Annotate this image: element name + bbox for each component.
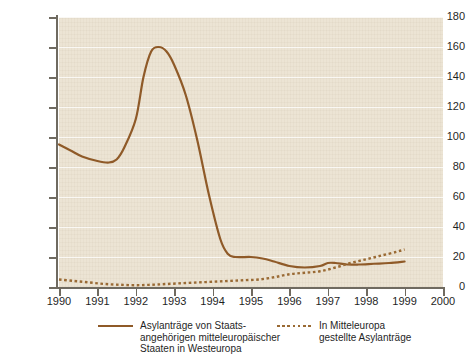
y-axis-tick [49,137,56,139]
y-axis-tick-label: 40 [419,221,465,232]
y-axis-tick [49,167,56,169]
series-line-mitteleuropa [59,250,405,286]
y-axis-tick-label: 100 [419,131,465,142]
y-axis-tick [49,47,56,49]
y-axis-tick-label: 0 [419,281,465,292]
series-line-westeuropa [59,47,405,268]
y-axis-tick-label: 60 [419,191,465,202]
y-axis-tick [49,287,56,289]
dotted-line-swatch [277,320,312,332]
y-axis-tick-label: 160 [419,41,465,52]
legend-item-mitteleuropa: In Mitteleuropa gestellte Asylanträge [277,320,411,343]
y-axis-tick-label: 120 [419,101,465,112]
y-axis-tick-label: 20 [419,251,465,262]
chart-legend: Asylanträge von Staats- angehörigen mitt… [0,318,465,362]
legend-label-mitteleuropa: In Mitteleuropa gestellte Asylanträge [319,320,411,343]
y-axis-tick [49,257,56,259]
y-axis-tick [49,17,56,19]
y-axis-line [56,15,58,289]
y-axis-tick-label: 140 [419,71,465,82]
y-axis-tick [49,107,56,109]
y-axis-tick [49,227,56,229]
y-axis-tick [49,77,56,79]
y-axis-tick-label: 80 [419,161,465,172]
legend-item-westeuropa: Asylanträge von Staats- angehörigen mitt… [98,320,280,355]
y-axis-tick [49,197,56,199]
legend-label-westeuropa: Asylanträge von Staats- angehörigen mitt… [140,320,280,355]
y-axis-tick-label: 180 [419,11,465,22]
solid-line-swatch [98,320,133,332]
x-axis-tick-label: 2000 [420,296,466,307]
